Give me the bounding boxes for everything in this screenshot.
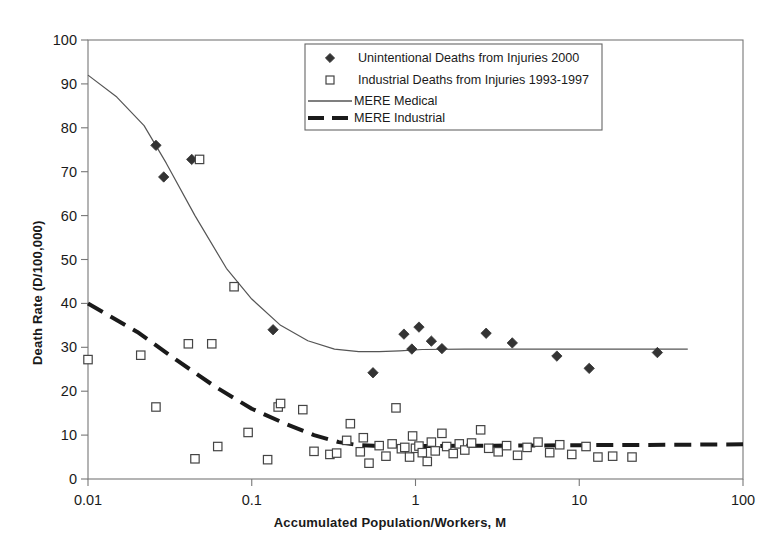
data-point-square (392, 404, 400, 412)
data-point-diamond (407, 344, 417, 354)
data-point-square (244, 428, 252, 436)
data-point-square (628, 453, 636, 461)
y-axis-tick-label: 10 (61, 427, 77, 443)
data-point-square (438, 429, 446, 437)
data-point-square (332, 449, 340, 457)
data-point-square (431, 447, 439, 455)
data-point-square (299, 405, 307, 413)
data-point-diamond (151, 140, 161, 150)
data-point-square (546, 448, 554, 456)
data-point-square (502, 441, 510, 449)
x-axis-tick-label: 0.01 (74, 492, 102, 508)
y-axis-tick-label: 60 (61, 208, 77, 224)
data-point-square (405, 453, 413, 461)
y-axis-tick-label: 70 (61, 164, 77, 180)
data-point-square (556, 441, 564, 449)
plot-canvas: 01020304050607080901000.010.1110100Unint… (0, 0, 780, 560)
fit-line-mere-industrial (88, 303, 743, 446)
data-point-square (208, 340, 216, 348)
data-point-square (230, 283, 238, 291)
data-point-diamond (414, 322, 424, 332)
data-point-square (513, 451, 521, 459)
x-axis-tick-label: 0.1 (242, 492, 262, 508)
data-point-square (356, 448, 364, 456)
x-axis-tick-label: 1 (411, 492, 419, 508)
series-unintentional-deaths (151, 140, 663, 378)
data-point-diamond (481, 328, 491, 338)
legend-label: MERE Industrial (354, 111, 445, 125)
data-point-square (427, 438, 435, 446)
data-point-square (359, 434, 367, 442)
y-axis-tick-label: 40 (61, 295, 77, 311)
data-point-square (84, 355, 92, 363)
data-point-square (401, 443, 409, 451)
y-axis-title: Death Rate (D/100,000) (30, 220, 45, 365)
data-point-diamond (426, 336, 436, 346)
data-point-diamond (552, 351, 562, 361)
data-point-square (388, 440, 396, 448)
data-point-diamond (584, 363, 594, 373)
data-point-square (485, 444, 493, 452)
data-point-square (382, 452, 390, 460)
data-point-diamond (368, 368, 378, 378)
data-point-square (214, 442, 222, 450)
data-point-square (365, 459, 373, 467)
data-point-square (476, 426, 484, 434)
legend-label: Unintentional Deaths from Injuries 2000 (358, 51, 579, 65)
data-point-square (137, 351, 145, 359)
data-point-square (263, 455, 271, 463)
data-point-square (152, 403, 160, 411)
data-point-diamond (159, 172, 169, 182)
data-point-square (191, 455, 199, 463)
y-axis-tick-label: 30 (61, 339, 77, 355)
data-point-square (467, 439, 475, 447)
legend-label: Industrial Deaths from Injuries 1993-199… (358, 73, 589, 87)
x-axis-tick-label: 100 (731, 492, 755, 508)
y-axis-tick-label: 90 (61, 76, 77, 92)
y-axis-tick-label: 100 (53, 32, 77, 48)
data-point-square (310, 447, 318, 455)
data-point-square (449, 449, 457, 457)
legend-label: MERE Medical (354, 94, 437, 108)
y-axis-tick-label: 50 (61, 252, 77, 268)
x-axis-tick-label: 10 (571, 492, 587, 508)
data-point-square (494, 448, 502, 456)
data-point-square (523, 443, 531, 451)
data-point-square (346, 419, 354, 427)
data-point-diamond (268, 325, 278, 335)
legend-square-icon (326, 76, 334, 84)
data-point-diamond (507, 338, 517, 348)
legend: Unintentional Deaths from Injuries 2000I… (305, 44, 602, 130)
y-axis-tick-label: 0 (69, 471, 77, 487)
data-point-square (408, 432, 416, 440)
data-point-square (418, 448, 426, 456)
data-point-square (608, 452, 616, 460)
data-point-square (375, 441, 383, 449)
x-axis-title: Accumulated Population/Workers, M (0, 515, 780, 530)
data-point-square (582, 442, 590, 450)
data-point-square (342, 436, 350, 444)
data-point-square (276, 399, 284, 407)
y-axis-tick-label: 20 (61, 383, 77, 399)
data-point-square (184, 340, 192, 348)
data-point-square (423, 457, 431, 465)
data-point-square (195, 155, 203, 163)
series-industrial-deaths (84, 155, 636, 467)
chart-figure: 01020304050607080901000.010.1110100Unint… (0, 0, 780, 560)
data-point-square (594, 453, 602, 461)
data-point-diamond (399, 329, 409, 339)
data-point-square (534, 438, 542, 446)
y-axis-tick-label: 80 (61, 120, 77, 136)
data-point-diamond (437, 343, 447, 353)
data-point-square (568, 450, 576, 458)
